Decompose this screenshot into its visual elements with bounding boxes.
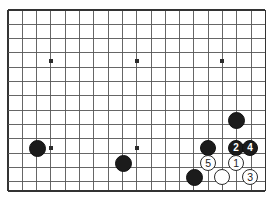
black-stone-bottom-right[interactable] [186, 169, 203, 186]
white-stone-move-5[interactable]: 5 [200, 155, 216, 171]
star-point-top-left [49, 59, 53, 63]
black-stone-left[interactable] [29, 140, 46, 157]
black-stone-upper-right[interactable] [228, 112, 245, 129]
white-stone-move-3-label: 3 [247, 171, 253, 182]
star-point-bottom-left [49, 146, 53, 150]
black-stone-move-4[interactable]: 4 [242, 140, 258, 156]
black-stone-move-2-label: 2 [233, 143, 238, 153]
white-stone-move-5-label: 5 [205, 157, 211, 168]
star-point-bottom-center [135, 146, 139, 150]
black-stone-move-4-label: 4 [247, 143, 252, 153]
black-stone-right-wall[interactable] [200, 140, 216, 156]
board-grid [0, 0, 277, 205]
white-stone-move-1[interactable]: 1 [228, 155, 244, 171]
black-stone-center[interactable] [115, 155, 132, 172]
white-stone-move-1-label: 1 [233, 157, 239, 168]
white-stone-plain[interactable] [214, 169, 230, 185]
go-board-diagram: 24513 [0, 0, 277, 205]
white-stone-move-3[interactable]: 3 [242, 169, 258, 185]
star-point-top-right [220, 59, 224, 63]
star-point-top-center [135, 59, 139, 63]
